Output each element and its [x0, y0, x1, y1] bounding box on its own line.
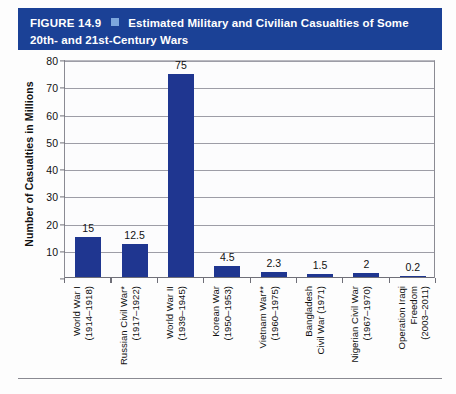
gridline: [65, 143, 434, 144]
gridline: [65, 61, 434, 62]
y-tick-mark: [60, 88, 65, 89]
bottom-divider: [18, 378, 442, 379]
figure-number: FIGURE 14.9: [30, 17, 101, 29]
y-tick-label: 50: [46, 137, 58, 149]
bar-value-label: 15: [82, 222, 94, 234]
y-tick-mark: [60, 224, 65, 225]
gridline: [65, 252, 434, 253]
gridline: [65, 116, 434, 117]
blue-square-icon: [111, 18, 119, 26]
bar: [122, 244, 148, 278]
x-tick-mark: [296, 278, 297, 283]
gridline: [65, 170, 434, 171]
bar-value-label: 12.5: [124, 229, 144, 241]
y-tick-mark: [60, 142, 65, 143]
bar: [168, 74, 194, 278]
bar: [75, 237, 101, 278]
gridline: [65, 197, 434, 198]
y-tick-label: 30: [46, 191, 58, 203]
gridline: [65, 88, 434, 89]
figure-title-line1: Estimated Military and Civilian Casualti…: [128, 17, 408, 29]
y-axis-title: Number of Casualties in Millions: [23, 69, 35, 259]
y-tick-label: 20: [46, 219, 58, 231]
plot-area: 1512.5754.52.31.520.2 1020304050607080: [64, 60, 435, 278]
y-tick-label: 40: [46, 164, 58, 176]
y-tick-mark: [60, 169, 65, 170]
y-tick-label: 80: [46, 55, 58, 67]
x-tick-mark: [389, 278, 390, 283]
bar-value-label: 2: [364, 258, 370, 270]
bar-value-label: 2.3: [266, 257, 281, 269]
figure-banner: FIGURE 14.9Estimated Military and Civili…: [18, 8, 442, 50]
x-tick-mark: [64, 278, 65, 283]
figure-banner-line-1: FIGURE 14.9Estimated Military and Civili…: [30, 13, 432, 32]
figure-title-line2: 20th- and 21st-Century Wars: [30, 32, 432, 49]
gridline: [65, 225, 434, 226]
y-tick-mark: [60, 197, 65, 198]
y-tick-label: 10: [46, 246, 58, 258]
x-tick-mark: [250, 278, 251, 283]
y-tick-label: 70: [46, 82, 58, 94]
y-tick-mark: [60, 115, 65, 116]
y-tick-label: 60: [46, 110, 58, 122]
bar-value-label: 0.2: [406, 261, 421, 273]
y-tick-mark: [60, 60, 65, 61]
bar-chart: Number of Casualties in Millions 1512.57…: [0, 50, 456, 380]
y-tick-mark: [60, 251, 65, 252]
plot-inner: 1512.5754.52.31.520.2 1020304050607080: [65, 61, 434, 278]
x-tick-mark: [157, 278, 158, 283]
bar-value-label: 1.5: [313, 259, 328, 271]
x-tick-mark: [110, 278, 111, 283]
bar-value-label: 75: [175, 59, 187, 71]
x-tick-mark: [435, 278, 436, 283]
x-tick-mark: [342, 278, 343, 283]
bar-value-label: 4.5: [220, 251, 235, 263]
x-tick-mark: [203, 278, 204, 283]
